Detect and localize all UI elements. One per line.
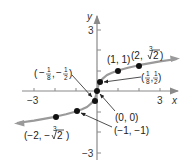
leader-pos-eighth [104, 77, 141, 82]
x-axis [22, 88, 178, 91]
svg-text:): ) [69, 68, 72, 79]
svg-text:): ) [160, 50, 163, 61]
svg-text:,: , [151, 72, 154, 83]
y-tick-label-min: −3 [82, 148, 94, 159]
x-axis-label: x [171, 95, 178, 106]
label-pos-eighth: ( 1 8 , 1 2 ) [141, 70, 161, 85]
svg-text:): ) [158, 72, 161, 83]
svg-text:2: 2 [153, 50, 159, 61]
svg-text:(−2, −: (−2, − [24, 130, 50, 141]
x-tick-label-max: 3 [157, 95, 163, 106]
point-two [136, 63, 142, 69]
svg-text:1: 1 [47, 66, 51, 73]
svg-text:−: − [56, 67, 62, 78]
label-neg-one: (−1, −1) [114, 125, 149, 136]
y-tick-label-max: 3 [88, 25, 94, 36]
leader-origin [100, 94, 115, 111]
point-neg-one [74, 108, 80, 114]
label-two-cbrt2: (2, 3 2 ) [131, 45, 163, 61]
curve-arrow-left [14, 120, 25, 127]
point-neg-two [53, 114, 59, 120]
svg-text:(: ( [141, 72, 145, 83]
curve-arrow-right [170, 56, 180, 63]
leader-neg-eighth [72, 75, 92, 97]
point-neg-eighth [92, 98, 98, 104]
svg-text:1: 1 [64, 66, 68, 73]
cube-root-graph: −3 3 x y 3 −3 (1, 1) (2, 3 2 ) ( 1 [0, 0, 191, 164]
svg-text:2: 2 [57, 130, 63, 141]
svg-text:1: 1 [146, 70, 150, 77]
point-one [115, 68, 121, 74]
label-one-one: (1, 1) [107, 54, 130, 65]
point-origin [94, 88, 100, 94]
svg-text:8: 8 [47, 74, 51, 81]
label-neg-two-cbrt2: (−2, − 3 2 ) [24, 125, 69, 141]
label-neg-eighth: ( − 1 8 , − 1 2 ) [34, 66, 72, 81]
svg-text:−: − [39, 67, 45, 78]
svg-text:(: ( [34, 68, 38, 79]
label-origin: (0, 0) [115, 112, 138, 123]
svg-text:): ) [66, 130, 69, 141]
svg-text:2: 2 [64, 74, 68, 81]
svg-text:8: 8 [146, 78, 150, 85]
svg-text:(2,: (2, [131, 50, 143, 61]
y-axis-label: y [86, 11, 93, 22]
point-pos-eighth [97, 79, 103, 85]
x-tick-label-min: −3 [27, 95, 39, 106]
svg-text:,: , [52, 68, 55, 79]
